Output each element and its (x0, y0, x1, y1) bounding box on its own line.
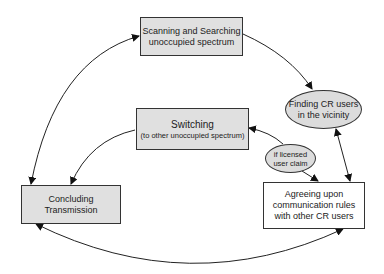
edge-licensed-agreeing (302, 171, 318, 181)
node-licensed-line2: user claim (273, 159, 307, 168)
node-finding-line2: in the vicinity (298, 110, 350, 121)
node-switching: Switching (to other unoccupied spectrum) (136, 108, 249, 150)
node-licensed: if licensed user claim (265, 144, 316, 173)
edge-switching-concluding (71, 130, 135, 184)
node-scanning-line1: Scanning and Searching (142, 26, 240, 37)
edge-finding-agreeing (336, 129, 350, 181)
edge-agreeing-concluding (36, 224, 343, 263)
node-licensed-line1: if licensed (274, 150, 307, 159)
node-concluding-line1: Concluding (48, 194, 93, 205)
node-agreeing-line2: communication rules (273, 200, 356, 211)
node-switching-line1: Switching (171, 119, 214, 131)
node-agreeing: Agreeing upon communication rules with o… (263, 182, 365, 229)
node-scanning-line2: unoccupied spectrum (149, 37, 235, 48)
node-concluding: Concluding Transmission (21, 185, 121, 224)
node-switching-line2: (to other unoccupied spectrum) (141, 131, 245, 140)
node-scanning: Scanning and Searching unoccupied spectr… (140, 17, 243, 56)
node-finding-line1: Finding CR users (289, 99, 359, 110)
node-agreeing-line3: with other CR users (274, 211, 353, 222)
edge-licensed-switching (249, 128, 283, 144)
edge-concluding-scanning (31, 36, 139, 184)
node-concluding-line2: Transmission (44, 205, 97, 216)
edge-scanning-finding (243, 34, 312, 89)
node-finding: Finding CR users in the vicinity (285, 90, 362, 129)
node-agreeing-line1: Agreeing upon (285, 189, 344, 200)
